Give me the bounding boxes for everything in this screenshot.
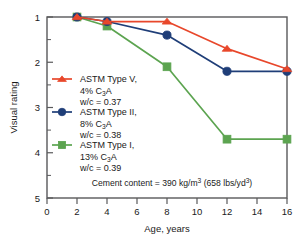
legend-marker-square-icon — [58, 141, 65, 148]
legend-label-name: ASTM Type I, — [80, 140, 134, 150]
y-tick-label-4: 4 — [35, 147, 40, 158]
x-axis-title: Age, years — [144, 223, 190, 234]
y-tick-label-2: 2 — [35, 57, 40, 68]
x-tick-label-6: 6 — [134, 206, 139, 217]
x-tick-label-14: 14 — [252, 206, 263, 217]
legend-label-wc: w/c = 0.37 — [79, 97, 121, 107]
data-point — [163, 63, 171, 71]
legend-label-name: ASTM Type II, — [80, 107, 137, 117]
x-tick-label-0: 0 — [44, 206, 49, 217]
x-tick-label-8: 8 — [164, 206, 169, 217]
legend-label-name: ASTM Type V, — [80, 74, 137, 84]
legend-label-wc: w/c = 0.39 — [79, 163, 121, 173]
x-tick-label-12: 12 — [222, 206, 233, 217]
legend-label-wc: w/c = 0.38 — [79, 130, 121, 140]
x-tick-label-10: 10 — [192, 206, 203, 217]
x-tick-label-2: 2 — [74, 206, 79, 217]
y-tick-label-3: 3 — [35, 102, 40, 113]
data-point — [283, 135, 291, 143]
y-tick-label-5: 5 — [35, 193, 40, 204]
data-point — [223, 135, 231, 143]
legend-label-c3a: 8% C3A — [80, 119, 112, 131]
legend-label-c3a: 13% C3A — [80, 152, 117, 164]
x-tick-label-16: 16 — [282, 206, 293, 217]
x-tick-label-4: 4 — [104, 206, 109, 217]
chart-figure: 1 2 3 4 5 Visual rating 0 2 4 6 8 10 12 … — [0, 0, 304, 243]
data-point — [223, 67, 231, 75]
line-chart: 1 2 3 4 5 Visual rating 0 2 4 6 8 10 12 … — [0, 0, 304, 243]
legend-label-c3a: 4% C3A — [80, 86, 112, 98]
cement-content-annotation: Cement content = 390 kg/m3 (658 lbs/yd3) — [92, 177, 253, 188]
y-tick-label-1: 1 — [35, 12, 40, 23]
data-point — [163, 31, 171, 39]
y-axis-title: Visual rating — [8, 81, 19, 133]
x-axis-ticks — [47, 198, 287, 204]
legend-marker-circle-icon — [58, 108, 66, 116]
